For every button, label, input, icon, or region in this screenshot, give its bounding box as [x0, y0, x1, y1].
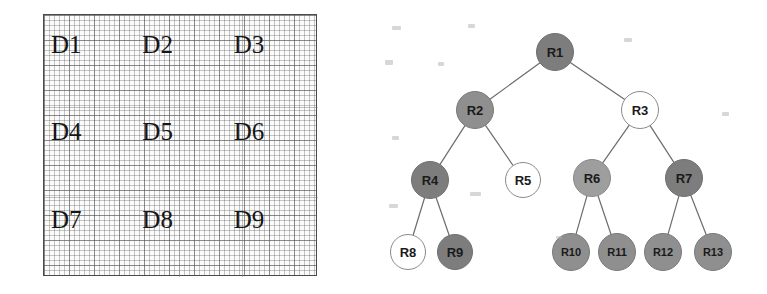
tree-node-label-r6: R6 [584, 172, 601, 185]
tree-node-label-r12: R12 [653, 247, 673, 258]
tree-node-r5[interactable]: R5 [505, 162, 541, 198]
scan-fleck [470, 192, 481, 196]
tree-node-r13[interactable]: R13 [694, 233, 732, 271]
tree-edge-r3-r7 [650, 125, 674, 163]
scan-fleck [392, 136, 399, 140]
region-cell-d2: D2 [134, 14, 225, 101]
tree-edge-r2-r4 [440, 125, 466, 165]
figure-root: D1 D2 D3 D4 D5 D6 D7 D8 D9 R1R2R3R4R5R6R… [0, 0, 767, 294]
tree-node-r9[interactable]: R9 [437, 234, 473, 270]
tree-edge-r7-r12 [668, 195, 679, 234]
scan-fleck [392, 26, 401, 30]
tree-node-label-r2: R2 [467, 104, 484, 117]
scan-fleck [385, 60, 393, 65]
tree-node-r4[interactable]: R4 [411, 161, 449, 199]
region-cell-d6: D6 [226, 101, 317, 188]
region-label-d4: D4 [51, 119, 82, 144]
region-label-d2: D2 [142, 32, 173, 57]
tree-node-r8[interactable]: R8 [390, 234, 426, 270]
tree-edge-r7-r13 [691, 195, 707, 235]
tree-edge-r2-r5 [485, 125, 513, 166]
scan-fleck [389, 204, 398, 208]
region-label-d6: D6 [234, 119, 265, 144]
scan-fleck [468, 24, 475, 28]
tree-edge-r4-r8 [413, 197, 425, 236]
tree-node-label-r1: R1 [547, 46, 564, 59]
tree-node-label-r3: R3 [632, 104, 649, 117]
region-cell-d9: D9 [226, 189, 317, 276]
tree-node-r6[interactable]: R6 [573, 159, 611, 197]
region-label-d8: D8 [142, 207, 173, 232]
region-label-d7: D7 [51, 207, 82, 232]
region-cell-d3: D3 [226, 14, 317, 101]
scan-fleck [438, 62, 444, 66]
scan-fleck [722, 112, 729, 116]
tree-node-r12[interactable]: R12 [644, 233, 682, 271]
tree-node-label-r11: R11 [607, 247, 627, 258]
tree-node-label-r4: R4 [422, 174, 439, 187]
region-cell-d5: D5 [134, 101, 225, 188]
tree-edge-r6-r10 [576, 195, 587, 234]
tree-node-label-r7: R7 [676, 172, 693, 185]
tree-node-label-r13: R13 [703, 247, 723, 258]
tree-node-r3[interactable]: R3 [621, 91, 659, 129]
tree-node-label-r10: R10 [561, 247, 581, 258]
tree-node-r7[interactable]: R7 [665, 159, 703, 197]
region-label-d9: D9 [234, 207, 265, 232]
tree-node-label-r9: R9 [447, 246, 464, 259]
data-region-label-layer: D1 D2 D3 D4 D5 D6 D7 D8 D9 [43, 14, 317, 276]
region-cell-d4: D4 [43, 101, 134, 188]
tree-node-label-r8: R8 [400, 246, 417, 259]
tree-edge-r1-r2 [490, 63, 541, 100]
region-label-d3: D3 [234, 32, 265, 57]
scan-fleck [556, 236, 562, 239]
tree-edge-r4-r9 [436, 197, 450, 236]
region-cell-d1: D1 [43, 14, 134, 101]
tree-node-r11[interactable]: R11 [598, 233, 636, 271]
tree-edge-r1-r3 [570, 62, 625, 100]
tree-edge-r3-r6 [602, 125, 629, 164]
scan-fleck [624, 38, 632, 42]
region-cell-d7: D7 [43, 189, 134, 276]
tree-node-label-r5: R5 [515, 174, 532, 187]
r-tree-diagram: R1R2R3R4R5R6R7R8R9R10R11R12R13 [360, 0, 767, 294]
region-cell-d8: D8 [134, 189, 225, 276]
region-label-d5: D5 [142, 119, 173, 144]
tree-edge-r6-r11 [598, 195, 611, 235]
tree-node-r1[interactable]: R1 [536, 33, 574, 71]
region-label-d1: D1 [51, 32, 82, 57]
tree-node-r2[interactable]: R2 [456, 91, 494, 129]
